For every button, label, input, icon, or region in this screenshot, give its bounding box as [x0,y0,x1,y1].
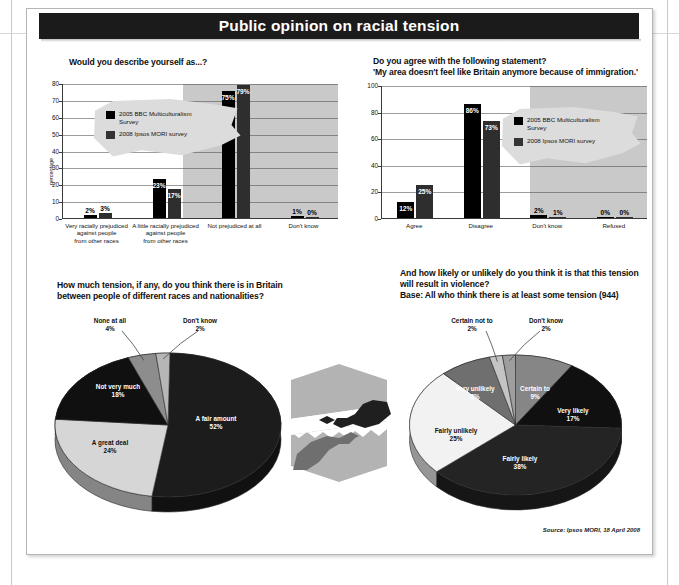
gridline [63,202,338,203]
page-edge-left [11,0,12,585]
bar-area-immigration-s1-c2 [464,104,481,218]
pie-slice-tension-level-1 [55,419,168,496]
pie-label-text: Certain not to [430,317,514,325]
y-axis-tick [59,135,62,136]
y-axis-tick-label: 20 [37,182,59,188]
x-axis-category-label: Don't know [256,222,352,229]
pie-label-value: 38% [478,463,562,471]
y-axis-tick-label: 70 [37,98,59,104]
pie-label-value: 2% [158,325,242,333]
pie-label-text: Don't know [504,317,588,325]
bar-self-description-s2-c4 [306,217,319,219]
pie2-title-line1: And how likely or unlikely do you think … [400,268,679,280]
pie-label: Very unlikely8% [433,385,517,401]
y-axis-tick [59,101,62,102]
pie-label: Certain not to2% [430,317,514,333]
y-axis-tick-label: 60 [37,115,59,121]
legend-label-series1-line2: Survey [119,118,138,126]
y-axis-tick-label: 80 [356,110,378,116]
y-axis-tick [378,219,381,220]
pie-chart-violence-likelihood: Certain to9%Very likely17%Fairly likely3… [398,345,633,505]
legend-label-series2: 2008 Ipsos MORI survey [119,130,187,138]
gridline [382,86,647,87]
y-axis-tick-label: 40 [37,149,59,155]
y-axis-tick-label: 60 [356,136,378,142]
y-axis-tick [59,84,62,85]
y-axis-tick-label: 50 [37,132,59,138]
pie-label-text: A fair amount [174,415,258,423]
source-note: Source: Ipsos MORI, 18 April 2008 [440,527,640,533]
gridline [63,168,338,169]
pie1-title-line1: How much tension, if any, do you think t… [57,280,347,292]
pie-label-text: Don't know [158,317,242,325]
bar-area-immigration-s2-c4 [616,217,633,219]
y-axis-tick [59,152,62,153]
title-bar: Public opinion on racial tension [39,13,639,39]
legend: 2005 BBC MulticulturalismSurvey2008 Ipso… [92,97,242,159]
y-axis-tick [59,202,62,203]
title-bar-shadow [41,39,641,42]
chart2-title-line2: 'My area doesn't feel like Britain anymo… [373,67,663,79]
hands-illustration [283,358,395,488]
y-axis-tick [378,139,381,140]
pie-label: Don't know2% [504,317,588,333]
y-axis-tick-label: 30 [37,165,59,171]
bar-value-label: 86% [460,107,485,114]
bar-value-label: 0% [302,209,323,216]
bar-self-description-s1-c4 [291,216,304,218]
pie1-title-line2: between people of different races and na… [57,291,347,303]
bar-value-label: 1% [545,209,570,216]
bar-value-label: 3% [95,205,116,212]
pie2-title-line2: will result in violence? [400,279,679,291]
bar-value-label: 25% [412,188,437,195]
gridline [63,84,338,85]
bar-area-immigration-s1-c3 [530,215,547,218]
bar-value-label: 12% [393,205,418,212]
y-axis-tick-label: 20 [356,189,378,195]
pie-label-text: Fairly likely [478,455,562,463]
pie-label-value: 24% [68,447,152,455]
y-axis-tick [378,113,381,114]
two-hands-reaching-across-torn-paper-icon [283,358,395,488]
y-axis-tick [59,168,62,169]
pie-label-text: None at all [68,317,152,325]
pie-label-text: Not very much [76,383,160,391]
legend: 2005 BBC MulticulturalismSurvey2008 Ipso… [500,105,642,167]
legend-label-series1-line1: 2005 BBC Multiculturalism [527,116,600,124]
y-axis-tick [59,185,62,186]
pie2-title-line3: Base: All who think there is at least so… [400,290,679,302]
legend-label-series1-line2: Survey [527,124,546,132]
y-axis-tick [378,192,381,193]
pie-label-value: 2% [430,325,514,333]
legend-swatch-series1 [514,117,523,125]
pie-label: A fair amount52% [174,415,258,431]
pie-label-text: Very likely [531,407,615,415]
pie-label: Fairly likely38% [478,455,562,471]
legend-label-series2: 2008 Ipsos MORI survey [527,137,595,145]
y-axis-tick-label: 100 [356,83,378,89]
pie-label-value: 4% [68,325,152,333]
pie-label-value: 2% [504,325,588,333]
legend-swatch-series1 [106,111,115,119]
bar-value-label: 17% [164,192,185,199]
y-axis-tick [59,118,62,119]
pie-label-value: 18% [76,391,160,399]
legend-label-series1-line1: 2005 BBC Multiculturalism [119,110,192,118]
tension-level-svg [48,345,288,526]
bar-area-immigration-s2-c3 [549,217,566,219]
y-axis-tick-label: 10 [37,199,59,205]
chart1-title: Would you describe yourself as...? [69,57,319,69]
x-axis-category-label: from other races [118,237,214,244]
y-axis-tick-label: 80 [37,81,59,87]
page-title: Public opinion on racial tension [39,17,639,35]
pie-label: None at all4% [68,317,152,333]
bar-area-immigration-s1-c4 [597,217,614,219]
bar-area-immigration-s2-c2 [483,121,500,218]
pie-label: Very likely17% [531,407,615,423]
pie-label-value: 8% [433,393,517,401]
y-axis-tick [59,219,62,220]
legend-swatch-series2 [514,138,523,146]
pie-label-value: 25% [414,435,498,443]
bar-self-description-s2-c1 [99,213,112,218]
legend-swatch-series2 [106,131,115,139]
